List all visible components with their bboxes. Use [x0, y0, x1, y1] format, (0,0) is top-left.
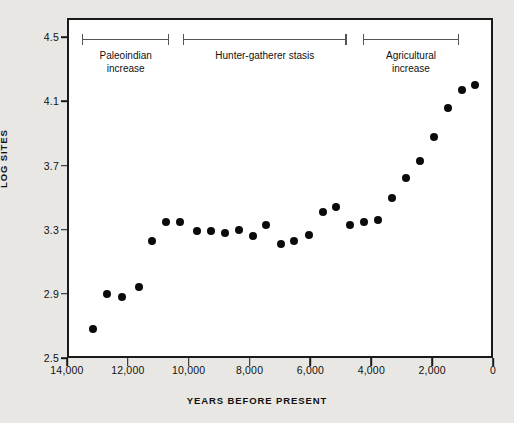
bracket-cap-left: [363, 34, 364, 45]
bracket-cap-right: [345, 34, 346, 45]
x-tick-mark: [370, 358, 372, 366]
data-point: [360, 218, 368, 226]
figure-scatter-log-sites: LOG SITES YEARS BEFORE PRESENT 2.52.93.3…: [0, 0, 514, 423]
data-point: [249, 232, 257, 240]
bracket-cap-right: [458, 34, 459, 45]
data-point: [416, 157, 424, 165]
bracket-label: Paleoindianincrease: [100, 49, 152, 75]
data-point: [162, 218, 170, 226]
bracket-cap-right: [168, 34, 169, 45]
data-point: [221, 229, 229, 237]
data-point: [103, 290, 111, 298]
x-tick-mark: [188, 358, 190, 366]
data-point: [388, 194, 396, 202]
bracket-cap-left: [82, 34, 83, 45]
data-point: [277, 240, 285, 248]
y-tick-label: 2.5: [19, 352, 59, 364]
x-tick-mark: [249, 358, 251, 366]
data-point: [332, 203, 340, 211]
bracket-bar: [183, 39, 347, 40]
data-point: [148, 237, 156, 245]
data-point: [458, 86, 466, 94]
bracket-bar: [82, 39, 169, 40]
data-point: [118, 293, 126, 301]
y-tick-mark: [61, 229, 68, 231]
y-tick-mark: [61, 165, 68, 167]
data-point: [402, 174, 410, 182]
data-point: [430, 133, 438, 141]
y-tick-mark: [61, 101, 68, 103]
data-point: [444, 104, 452, 112]
y-axis-title: LOG SITES: [0, 129, 9, 188]
y-tick-label: 3.3: [19, 224, 59, 236]
y-tick-label: 4.1: [19, 95, 59, 107]
bracket-bar: [363, 39, 459, 40]
data-point: [290, 237, 298, 245]
data-point: [235, 226, 243, 234]
x-axis-title: YEARS BEFORE PRESENT: [0, 395, 514, 406]
y-tick-mark: [61, 293, 68, 295]
data-point: [207, 227, 215, 235]
x-tick-mark: [66, 358, 68, 366]
data-point: [262, 221, 270, 229]
y-tick-label: 4.5: [19, 31, 59, 43]
data-point: [135, 283, 143, 291]
bracket-label: Hunter-gatherer stasis: [215, 49, 314, 62]
data-point: [89, 325, 97, 333]
y-tick-label: 2.9: [19, 288, 59, 300]
data-point: [193, 227, 201, 235]
data-point: [374, 216, 382, 224]
x-tick-label: 0: [463, 364, 514, 376]
data-point: [471, 81, 479, 89]
data-point: [176, 218, 184, 226]
data-point: [305, 231, 313, 239]
data-point: [346, 221, 354, 229]
y-tick-mark: [61, 36, 68, 38]
x-tick-mark: [431, 358, 433, 366]
bracket-cap-left: [183, 34, 184, 45]
x-tick-mark: [492, 358, 494, 366]
y-tick-label: 3.7: [19, 160, 59, 172]
x-tick-mark: [310, 358, 312, 366]
data-point: [319, 208, 327, 216]
bracket-label: Agriculturalincrease: [386, 49, 436, 75]
x-tick-mark: [127, 358, 129, 366]
